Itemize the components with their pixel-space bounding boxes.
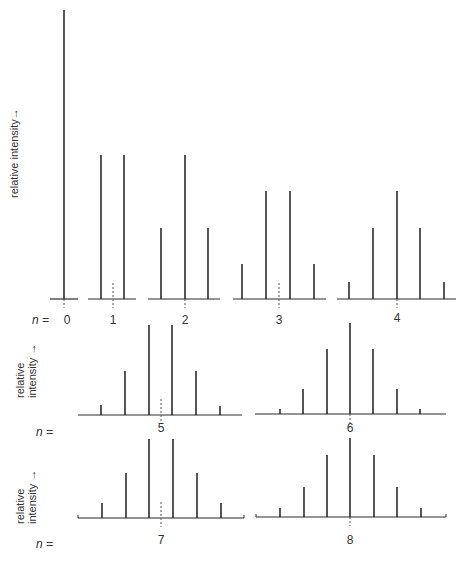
panel-label-n4: 4 [387,311,407,325]
multiplet-panel-n6 [255,323,446,423]
multiplet-intensity-diagram [0,0,464,562]
multiplet-panel-n5 [78,325,242,424]
panel-label-n0: 0 [57,313,77,327]
panel-label-n1: 1 [103,313,123,327]
panel-label-n5: 5 [151,421,171,435]
multiplet-panel-n2 [148,155,220,308]
y-axis-label-top-text: relative intensity→ [8,108,20,198]
panel-label-n2: 2 [175,313,195,327]
y-axis-label-mid-line1: relative [14,344,26,398]
arrow-icon: → [26,344,38,355]
y-axis-label-top: relative intensity→ [8,108,20,198]
multiplet-panel-n8 [256,438,446,526]
multiplet-panel-n1 [88,155,136,308]
panel-label-n8: 8 [340,533,360,547]
y-axis-label-mid: relative intensity → [14,344,38,398]
n-equals-label-row2: n = [36,425,53,439]
panel-label-n3: 3 [269,313,289,327]
multiplet-panel-n3 [233,191,326,308]
y-axis-label-bottom-line1: relative [14,470,26,524]
y-axis-label-mid-line2: intensity → [26,344,38,398]
panel-label-n7: 7 [151,533,171,547]
y-axis-label-bottom-line2: intensity → [26,470,38,524]
panel-label-n6: 6 [340,421,360,435]
multiplet-panel-n7 [78,439,244,527]
y-axis-label-bottom: relative intensity → [14,470,38,524]
n-equals-label-row3: n = [36,537,53,551]
multiplet-panel-n0 [50,10,78,308]
arrow-icon: → [26,470,38,481]
n-equals-label-row1: n = [32,313,49,327]
multiplet-panel-n4 [337,191,456,308]
